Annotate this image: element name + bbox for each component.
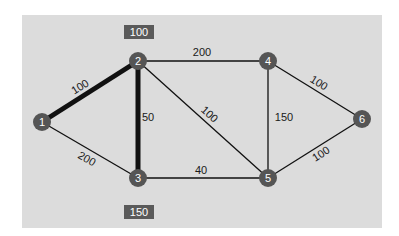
edge-5-6: [268, 119, 362, 178]
graph-canvas: 100 200 50 200 100 40 150 100 100 1 2 3: [0, 0, 399, 236]
weight-2-4: 200: [193, 46, 211, 58]
node-5: 5: [259, 169, 277, 187]
node-1-label: 1: [39, 116, 45, 128]
weight-4-5: 150: [275, 111, 293, 123]
weight-5-6: 100: [310, 144, 332, 164]
edge-weights: 100 200 50 200 100 40 150 100 100: [69, 46, 332, 176]
node-3-label: 3: [135, 172, 141, 184]
distance-box-bottom-label: 150: [130, 206, 148, 218]
node-6: 6: [353, 110, 371, 128]
node-2-label: 2: [135, 55, 141, 67]
weight-1-3: 200: [76, 149, 98, 169]
weight-4-6: 100: [308, 73, 330, 93]
distance-box-top-label: 100: [130, 26, 148, 38]
node-4: 4: [259, 52, 277, 70]
edge-2-5: [138, 61, 268, 178]
distance-box-bottom: 150: [124, 205, 154, 219]
weight-3-5: 40: [195, 164, 207, 176]
node-6-label: 6: [359, 113, 365, 125]
weight-2-3: 50: [142, 111, 154, 123]
node-2: 2: [129, 52, 147, 70]
edge-1-2: [42, 61, 138, 122]
weight-2-5: 100: [199, 103, 221, 124]
edge-1-3: [42, 122, 138, 178]
node-3: 3: [129, 169, 147, 187]
distance-box-top: 100: [124, 25, 154, 39]
node-4-label: 4: [265, 55, 271, 67]
graph-diagram: 100 200 50 200 100 40 150 100 100 1 2 3: [0, 0, 399, 236]
node-5-label: 5: [265, 172, 271, 184]
node-1: 1: [33, 113, 51, 131]
